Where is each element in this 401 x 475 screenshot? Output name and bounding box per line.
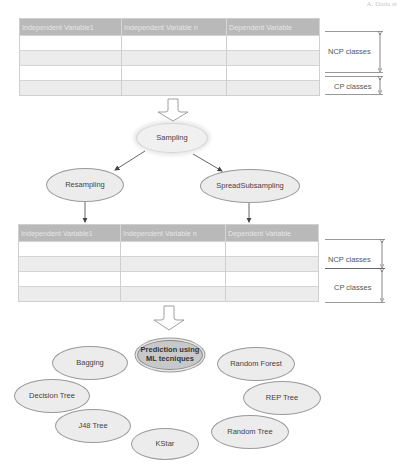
data-table-balanced: Independent Variable1 Independent Variab…: [18, 224, 319, 302]
node-kstar: KStar: [131, 428, 199, 460]
data-table-original: Independent Variable1 Independent Variab…: [19, 18, 320, 96]
node-prediction-ml: Prediction using ML tecniques: [137, 340, 203, 370]
column-header: Dependent Variable: [227, 19, 320, 36]
node-spread-subsampling: SpreadSubsampling: [200, 169, 300, 203]
bracket-line: [325, 302, 385, 303]
bracket-line: [325, 72, 383, 73]
column-header: Independent Variable n: [121, 225, 226, 242]
table-row: [20, 51, 320, 66]
column-header: Independent Variable1: [20, 19, 122, 36]
table-row: [19, 272, 319, 287]
table-row: [20, 66, 320, 81]
node-random-tree: Random Tree: [211, 415, 289, 449]
table-row: [20, 36, 320, 51]
node-j48-tree: J48 Tree: [55, 409, 131, 443]
cp-classes-label: CP classes: [334, 82, 371, 91]
node-bagging: Bagging: [52, 346, 128, 380]
node-resampling: Resampling: [46, 168, 124, 202]
table-row: [19, 287, 319, 302]
page-corner-label: A. Datia et: [366, 0, 397, 8]
table-row: [20, 81, 320, 96]
column-header: Independent Variable1: [19, 225, 121, 242]
bracket-line: [325, 31, 383, 32]
block-arrow-down-icon: [154, 306, 184, 330]
node-rep-tree: REP Tree: [243, 381, 321, 415]
node-decision-tree: Decision Tree: [14, 379, 90, 413]
bracket-line: [325, 94, 383, 95]
bracket-line: [325, 76, 383, 77]
column-header: Independent Variable n: [122, 19, 227, 36]
bracket-line: [325, 268, 385, 269]
node-random-forest: Random Forest: [217, 347, 295, 381]
ncp-classes-label: NCP classes: [328, 47, 371, 56]
bracket-line: [325, 239, 385, 240]
column-header: Dependent Variable: [226, 225, 319, 242]
node-sampling: Sampling: [136, 123, 208, 153]
ncp-classes-label: NCP classes: [328, 255, 371, 264]
cp-classes-label: CP classes: [334, 283, 371, 292]
table-row: [19, 257, 319, 272]
table-row: [19, 242, 319, 257]
block-arrow-down-icon: [158, 99, 188, 121]
